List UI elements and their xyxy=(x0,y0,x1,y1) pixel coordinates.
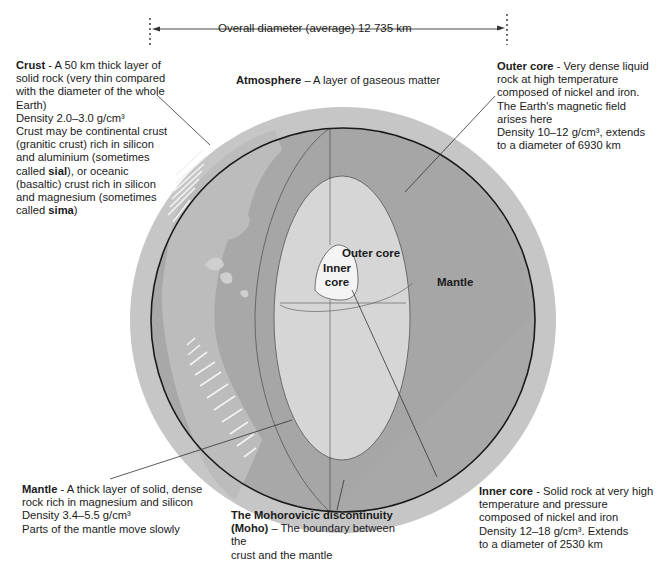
atmosphere-annotation: Atmosphere – A layer of gaseous matter xyxy=(236,74,440,87)
moho-title: The Mohorovicic discontinuity xyxy=(231,509,393,521)
crust-text: (basaltic) crust rich in silicon xyxy=(16,178,186,191)
inner-core-text: - Solid rock at very high xyxy=(533,485,653,497)
outer-core-text: arises here xyxy=(497,113,659,126)
crust-text: Crust may be continental crust xyxy=(16,125,186,138)
outer-core-text: rock at high temperature xyxy=(497,73,659,86)
crust-text: with the diameter of the whole xyxy=(16,85,186,98)
crust-text: called xyxy=(16,165,48,177)
crust-text: and aluminium (sometimes xyxy=(16,151,186,164)
mantle-text: - A thick layer of solid, dense xyxy=(57,483,202,495)
crust-density: Density 2.0–3.0 g/cm³ xyxy=(16,112,186,125)
diagram-label-outer-core: Outer core xyxy=(342,246,400,260)
inner-core-annotation: Inner core - Solid rock at very high tem… xyxy=(479,485,659,551)
inner-core-text: to a diameter of 2530 km xyxy=(479,538,659,551)
inner-core-label-line: core xyxy=(318,275,356,289)
moho-abbrev: (Moho) xyxy=(231,522,268,534)
outer-core-shape xyxy=(274,176,410,460)
mantle-text: rock rich in magnesium and silicon xyxy=(22,496,222,509)
inner-core-text: temperature and pressure xyxy=(479,498,659,511)
mantle-title: Mantle xyxy=(22,483,57,495)
inner-core-title: Inner core xyxy=(479,485,533,497)
outer-core-density: Density 10–12 g/cm³, extends xyxy=(497,126,659,139)
crust-text: and magnesium (sometimes xyxy=(16,191,186,204)
outer-core-text: - Very dense liquid xyxy=(554,60,649,72)
mantle-density: Density 3.4–5.5 g/cm³ xyxy=(22,509,222,522)
outer-core-text: to a diameter of 6930 km xyxy=(497,139,659,152)
outer-core-title: Outer core xyxy=(497,60,554,72)
diameter-label: Overall diameter (average) 12 735 km xyxy=(218,22,412,34)
inner-core-label-line: Inner xyxy=(318,261,356,275)
sial-term: sial xyxy=(48,165,67,177)
mantle-text: Parts of the mantle move slowly xyxy=(22,523,222,536)
crust-text: Earth) xyxy=(16,99,186,112)
crust-text: - A 50 km thick layer of xyxy=(45,59,161,71)
outer-core-annotation: Outer core - Very dense liquid rock at h… xyxy=(497,60,659,152)
crust-text: called xyxy=(16,204,48,216)
crust-title: Crust xyxy=(16,59,45,71)
crust-annotation: Crust - A 50 km thick layer of solid roc… xyxy=(16,59,186,217)
diagram-label-inner-core: Inner core xyxy=(318,261,356,289)
crust-text: (granitic crust) rich in silicon xyxy=(16,138,186,151)
crust-text: ), or oceanic xyxy=(67,165,129,177)
outer-core-text: composed of nickel and iron. xyxy=(497,86,659,99)
diagram-label-mantle: Mantle xyxy=(437,275,473,289)
outer-core-text: The Earth's magnetic field xyxy=(497,100,659,113)
mantle-annotation: Mantle - A thick layer of solid, dense r… xyxy=(22,483,222,536)
inner-core-density: Density 12–18 g/cm³. Extends xyxy=(479,525,659,538)
atmosphere-title: Atmosphere xyxy=(236,74,301,86)
atmosphere-text: – A layer of gaseous matter xyxy=(301,74,440,86)
moho-annotation: The Mohorovicic discontinuity (Moho) – T… xyxy=(231,509,411,562)
moho-text: crust and the mantle xyxy=(231,549,411,562)
crust-text: ) xyxy=(74,204,78,216)
inner-core-text: composed of nickel and iron xyxy=(479,511,659,524)
sima-term: sima xyxy=(48,204,74,216)
crust-text: solid rock (very thin compared xyxy=(16,72,186,85)
